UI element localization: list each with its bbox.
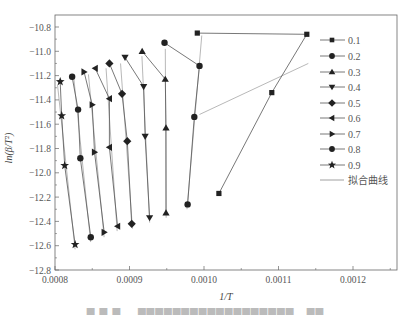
y-axis-title: ln(β/T²) bbox=[3, 132, 15, 163]
diamond-marker-icon bbox=[123, 137, 131, 145]
diamond-marker-icon bbox=[328, 99, 336, 107]
octagon-marker-icon bbox=[69, 74, 75, 80]
legend-label: 0.9 bbox=[348, 160, 361, 171]
triangle-right-marker-icon bbox=[90, 101, 96, 108]
series-0.2 bbox=[161, 40, 202, 208]
triangle-right-marker-icon bbox=[330, 131, 336, 138]
series-0.5 bbox=[105, 59, 136, 228]
figure-caption-cropped: ▇ ▇ ▇ ▇▇▇▇▇▇▇▇▇▇▇▇▇▇▇▇▇▇ ▇▇ bbox=[0, 307, 411, 315]
triangle-up-marker-icon bbox=[329, 69, 336, 75]
legend-item: 0.6 bbox=[320, 113, 361, 124]
octagon-marker-icon bbox=[88, 234, 94, 240]
circle-marker-icon bbox=[191, 114, 197, 120]
y-tick-label: −11.8 bbox=[29, 144, 51, 154]
legend-label: 0.1 bbox=[348, 35, 361, 46]
triangle-down-marker-icon bbox=[142, 134, 149, 140]
octagon-marker-icon bbox=[75, 106, 81, 112]
x-tick-label: 0.0009 bbox=[116, 275, 142, 285]
legend-label: 0.6 bbox=[348, 113, 361, 124]
y-tick-label: −10.8 bbox=[29, 23, 51, 33]
series-0.3 bbox=[139, 48, 170, 216]
square-marker-icon bbox=[216, 191, 221, 196]
triangle-right-marker-icon bbox=[102, 229, 108, 236]
series-line bbox=[142, 51, 166, 213]
triangle-down-marker-icon bbox=[140, 84, 147, 90]
triangle-down-marker-icon bbox=[329, 85, 336, 91]
star-marker-icon bbox=[328, 161, 336, 169]
circle-marker-icon bbox=[196, 63, 202, 69]
octagon-marker-icon bbox=[329, 146, 335, 152]
legend-item: 0.1 bbox=[320, 35, 361, 46]
diamond-marker-icon bbox=[128, 220, 136, 228]
series-0.6 bbox=[92, 65, 121, 230]
legend-item: 0.5 bbox=[320, 98, 361, 109]
legend-label: 0.7 bbox=[348, 129, 361, 140]
y-tick-label: −11.0 bbox=[29, 47, 51, 57]
legend-label: 0.5 bbox=[348, 98, 361, 109]
legend-label: 拟合曲线 bbox=[348, 174, 388, 186]
chart: 0.00080.00090.00100.00110.0012 −10.8−11.… bbox=[0, 0, 411, 315]
series-line bbox=[60, 82, 75, 245]
x-axis-title: 1/T bbox=[219, 291, 234, 302]
legend-label: 0.3 bbox=[348, 67, 361, 78]
series-0.8 bbox=[69, 74, 94, 241]
y-tick-label: −11.6 bbox=[29, 120, 51, 130]
y-tick-label: −12.8 bbox=[29, 266, 51, 276]
legend-label: 0.8 bbox=[348, 144, 361, 155]
circle-marker-icon bbox=[329, 53, 335, 59]
triangle-left-marker-icon bbox=[106, 144, 112, 151]
triangle-left-marker-icon bbox=[329, 115, 335, 122]
x-tick-label: 0.0012 bbox=[340, 275, 366, 285]
series-layer bbox=[56, 30, 310, 248]
circle-marker-icon bbox=[184, 201, 190, 207]
series-line bbox=[197, 33, 306, 193]
triangle-left-marker-icon bbox=[92, 65, 98, 72]
legend-item: 0.7 bbox=[320, 129, 361, 140]
circle-marker-icon bbox=[161, 40, 167, 46]
square-marker-icon bbox=[195, 30, 200, 35]
square-marker-icon bbox=[304, 32, 309, 37]
x-tick-label: 0.0011 bbox=[266, 275, 292, 285]
y-tick-label: −12.0 bbox=[29, 168, 51, 178]
x-axis: 0.00080.00090.00100.00110.0012 bbox=[42, 266, 390, 285]
triangle-down-marker-icon bbox=[146, 215, 153, 221]
y-axis: −10.8−11.0−11.2−11.4−11.6−11.8−12.0−12.2… bbox=[29, 23, 59, 276]
legend-label: 0.2 bbox=[348, 51, 361, 62]
legend-label: 0.4 bbox=[348, 82, 361, 93]
legend-item: 0.2 bbox=[320, 51, 361, 62]
legend-item: 拟合曲线 bbox=[320, 174, 388, 186]
x-tick-label: 0.0008 bbox=[42, 275, 68, 285]
triangle-left-marker-icon bbox=[106, 95, 112, 102]
square-marker-icon bbox=[330, 38, 335, 43]
triangle-up-marker-icon bbox=[162, 209, 169, 215]
y-tick-label: −12.6 bbox=[29, 241, 51, 251]
legend-item: 0.3 bbox=[320, 67, 361, 78]
x-tick-label: 0.0010 bbox=[191, 275, 217, 285]
legend-item: 0.4 bbox=[320, 82, 361, 93]
diamond-marker-icon bbox=[105, 59, 113, 67]
square-marker-icon bbox=[269, 90, 274, 95]
y-tick-label: −11.2 bbox=[29, 71, 51, 81]
octagon-marker-icon bbox=[77, 155, 83, 161]
fit-line bbox=[200, 63, 309, 114]
legend-item: 0.9 bbox=[320, 160, 361, 171]
series-0.1 bbox=[195, 30, 310, 196]
series-0.7 bbox=[81, 68, 107, 236]
triangle-up-marker-icon bbox=[139, 48, 146, 54]
y-tick-label: −12.4 bbox=[29, 217, 51, 227]
legend: 0.10.20.30.40.50.60.70.80.9拟合曲线 bbox=[320, 35, 388, 186]
y-tick-label: −12.2 bbox=[29, 193, 51, 203]
y-tick-label: −11.4 bbox=[29, 95, 51, 105]
triangle-down-marker-icon bbox=[121, 55, 128, 61]
triangle-up-marker-icon bbox=[162, 124, 169, 130]
diamond-marker-icon bbox=[118, 90, 126, 98]
legend-item: 0.8 bbox=[320, 144, 361, 155]
